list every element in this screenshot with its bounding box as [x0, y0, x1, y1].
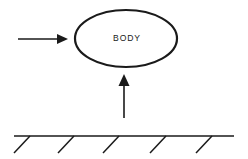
body-shape-group: BODY	[75, 10, 177, 67]
body-label: BODY	[113, 33, 141, 43]
free-body-diagram-canvas: BODY	[0, 0, 248, 159]
diagram-svg: BODY	[0, 0, 248, 159]
